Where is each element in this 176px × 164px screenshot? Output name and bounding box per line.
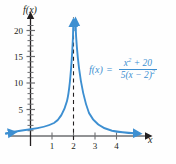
- numerator-rest: + 20: [134, 58, 152, 68]
- x-tick-labels: 1 2 3 4: [50, 141, 120, 151]
- equation-annotation: f(x) = x2 + 20 5(x − 2)2: [89, 59, 157, 81]
- y-tick-label-20: 20: [14, 26, 24, 36]
- x-tick-label-3: 3: [93, 141, 98, 151]
- equation-numerator: x2 + 20: [122, 59, 154, 69]
- y-tick-label-5: 5: [19, 105, 24, 115]
- y-tick-label-15: 15: [14, 52, 24, 62]
- y-axis: [27, 18, 36, 146]
- curve-left-arrow-tail: [5, 133, 10, 134]
- denominator-exponent: 2: [152, 68, 155, 75]
- x-tick-label-2: 2: [71, 141, 76, 151]
- equation-fraction: x2 + 20 5(x − 2)2: [119, 59, 157, 81]
- y-tick-label-10: 10: [14, 78, 24, 88]
- equation-denominator: 5(x − 2)2: [119, 70, 157, 81]
- y-tick-labels: 5 10 15 20: [14, 26, 24, 115]
- graph-canvas: 1 2 3 4 5 10 15 20 x f(x): [0, 0, 176, 164]
- x-tick-label-1: 1: [50, 141, 55, 151]
- x-axis-label: x: [147, 134, 153, 145]
- equation-lhs: f(x): [89, 64, 103, 75]
- function-graph-figure: 1 2 3 4 5 10 15 20 x f(x) f(x) = x2 + 20…: [0, 0, 176, 164]
- numerator-exponent: 2: [128, 56, 131, 63]
- denominator-expr: 5(x − 2): [121, 70, 152, 80]
- y-axis-label: f(x): [23, 4, 38, 16]
- x-tick-label-4: 4: [114, 141, 119, 151]
- equation-equals: =: [106, 64, 113, 75]
